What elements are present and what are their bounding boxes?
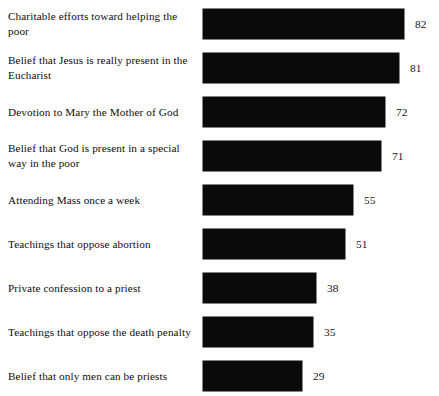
bar-value-label: 55 [353, 185, 375, 215]
bar-row: Attending Mass once a week55 [0, 178, 439, 222]
bar-category-label: Charitable efforts toward helping the po… [8, 2, 196, 46]
bar-value-label: 29 [302, 361, 324, 391]
bar-row: Teachings that oppose the death penalty3… [0, 310, 439, 354]
bar-category-label: Belief that Jesus is really present in t… [8, 46, 196, 90]
bar-category-label: Belief that only men can be priests [8, 354, 196, 396]
bar-value-label: 81 [399, 53, 421, 83]
bar-track: 55 [203, 185, 433, 215]
bar-category-label: Belief that God is present in a special … [8, 134, 196, 178]
bar-track: 51 [203, 229, 433, 259]
bar-track: 81 [203, 53, 433, 83]
bar-fill [203, 361, 302, 391]
bar-row: Belief that only men can be priests29 [0, 354, 439, 396]
bar-fill [203, 9, 404, 39]
bar-category-label: Teachings that oppose the death penalty [8, 310, 196, 354]
bar-value-label: 51 [345, 229, 367, 259]
bar-fill [203, 53, 399, 83]
bar-fill [203, 317, 313, 347]
bar-fill [203, 141, 381, 171]
bar-fill [203, 229, 345, 259]
bar-row: Devotion to Mary the Mother of God72 [0, 90, 439, 134]
bar-track: 38 [203, 273, 433, 303]
bar-category-label: Devotion to Mary the Mother of God [8, 90, 196, 134]
bar-row: Belief that Jesus is really present in t… [0, 46, 439, 90]
bar-category-label: Teachings that oppose abortion [8, 222, 196, 266]
bar-value-label: 71 [381, 141, 403, 171]
bar-track: 71 [203, 141, 433, 171]
bar-row: Private confession to a priest38 [0, 266, 439, 310]
bar-row: Teachings that oppose abortion51 [0, 222, 439, 266]
bar-value-label: 35 [313, 317, 335, 347]
bar-track: 29 [203, 361, 433, 391]
bar-track: 82 [203, 9, 433, 39]
bar-fill [203, 185, 353, 215]
bar-value-label: 82 [404, 9, 426, 39]
bar-fill [203, 97, 385, 127]
bar-category-label: Private confession to a priest [8, 266, 196, 310]
bar-row: Charitable efforts toward helping the po… [0, 2, 439, 46]
bar-track: 72 [203, 97, 433, 127]
bar-row: Belief that God is present in a special … [0, 134, 439, 178]
bar-track: 35 [203, 317, 433, 347]
bar-fill [203, 273, 316, 303]
bar-category-label: Attending Mass once a week [8, 178, 196, 222]
bar-value-label: 38 [316, 273, 338, 303]
bar-value-label: 72 [385, 97, 407, 127]
